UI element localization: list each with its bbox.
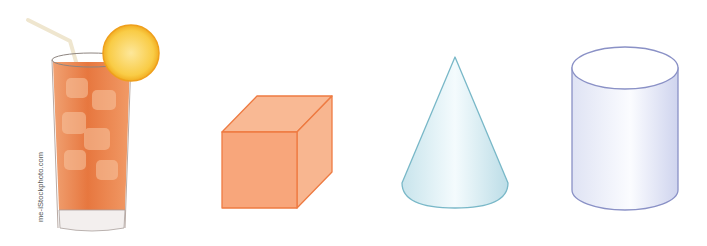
cube [222,96,332,208]
cylinder [572,47,678,210]
cube-front-face [222,132,297,208]
lemon-slice-icon [103,25,159,81]
cone [402,57,508,208]
glass-base [59,210,125,231]
watermark-text: me-iStockphoto.com [36,152,45,222]
iced-tea-glass [28,20,159,231]
cone-body [402,57,508,208]
cylinder-top [572,47,678,89]
shapes-figure [0,0,707,246]
